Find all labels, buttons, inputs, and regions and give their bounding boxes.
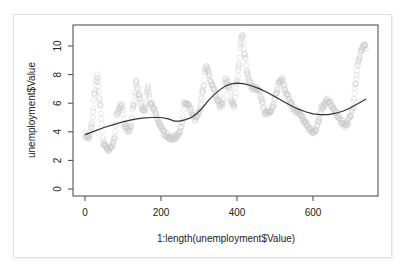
x-tick-label: 200 <box>153 207 170 218</box>
x-tick-label: 0 <box>82 207 88 218</box>
y-axis-title: unemployment$Value <box>26 62 37 158</box>
data-points <box>82 32 368 154</box>
x-axis: 0200400600 <box>82 196 322 218</box>
scatter-plot: 0200400600 0246810 1:length(unemployment… <box>0 0 401 267</box>
y-tick-label: 6 <box>52 100 63 106</box>
x-tick-label: 600 <box>305 207 322 218</box>
y-tick-label: 0 <box>52 186 63 192</box>
x-tick-label: 400 <box>229 207 246 218</box>
y-tick-label: 8 <box>52 71 63 77</box>
y-tick-label: 10 <box>52 40 63 52</box>
y-axis: 0246810 <box>52 40 73 192</box>
x-axis-title: 1:length(unemployment$Value) <box>157 233 295 244</box>
y-tick-label: 2 <box>52 157 63 163</box>
y-tick-label: 4 <box>52 129 63 135</box>
